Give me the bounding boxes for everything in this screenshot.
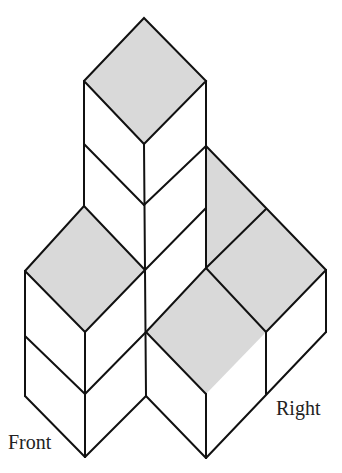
- right-view-label: Right: [276, 398, 320, 418]
- front-view-label: Front: [8, 432, 51, 452]
- top-faces: [25, 18, 326, 394]
- left-upper-top-face: [25, 206, 145, 332]
- tower-top-face: [84, 18, 206, 144]
